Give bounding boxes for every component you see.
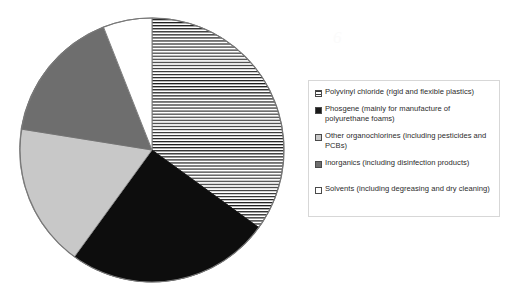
pie-chart-svg [18,16,286,284]
legend-item-label: Inorganics (including disinfection produ… [325,158,469,169]
legend-item-label: Phosgene (mainly for manufacture of poly… [325,104,494,125]
hatched-swatch-icon [315,90,322,97]
dark-gray-swatch-icon [315,161,322,168]
legend-item-solvents[interactable]: Solvents (including degreasing and dry c… [314,184,494,195]
chart-legend: Polyvinyl chloride (rigid and flexible p… [308,80,500,217]
legend-item-polyvinyl-chloride[interactable]: Polyvinyl chloride (rigid and flexible p… [314,87,494,98]
legend-item-other-organochlorines[interactable]: Other organochlorines (including pestici… [314,131,494,152]
legend-item-label: Polyvinyl chloride (rigid and flexible p… [325,87,474,98]
legend-item-inorganics[interactable]: Inorganics (including disinfection produ… [314,158,494,169]
faint-watermark-artifact: 6 [333,28,393,66]
legend-item-label: Other organochlorines (including pestici… [325,131,494,152]
light-gray-swatch-icon [315,134,322,141]
pie-chart [18,16,286,284]
legend-item-phosgene[interactable]: Phosgene (mainly for manufacture of poly… [314,104,494,125]
pie-slice-group [19,18,284,282]
white-swatch-icon [315,187,322,194]
legend-item-label: Solvents (including degreasing and dry c… [325,184,490,195]
black-swatch-icon [315,107,322,114]
